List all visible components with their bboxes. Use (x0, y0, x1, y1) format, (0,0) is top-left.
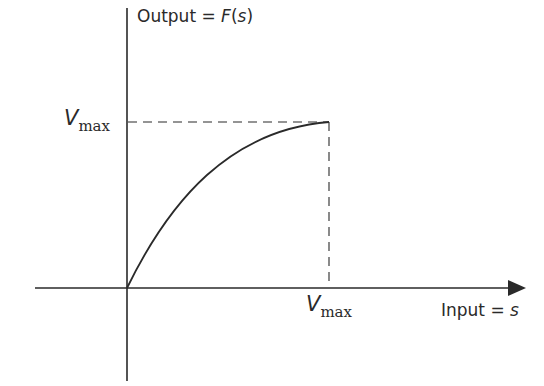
response-curve (127, 122, 329, 288)
y-vmax-symbol: V (64, 106, 78, 130)
x-label-var: s (510, 300, 519, 320)
x-vmax-symbol: V (306, 292, 320, 316)
y-axis-label: Output = F(s) (137, 6, 253, 26)
x-axis-label: Input = s (441, 300, 519, 320)
y-vmax-subscript: max (78, 117, 110, 135)
x-vmax-label: Vmax (306, 292, 352, 316)
x-vmax-subscript: max (320, 303, 352, 321)
y-vmax-label: Vmax (64, 106, 110, 130)
x-label-prefix: Input = (441, 300, 510, 320)
y-label-func: F (221, 6, 231, 26)
diagram-canvas (0, 0, 544, 386)
x-axis-arrowhead-icon (508, 280, 526, 296)
y-label-prefix: Output = (137, 6, 221, 26)
y-label-arg: s (238, 6, 247, 26)
